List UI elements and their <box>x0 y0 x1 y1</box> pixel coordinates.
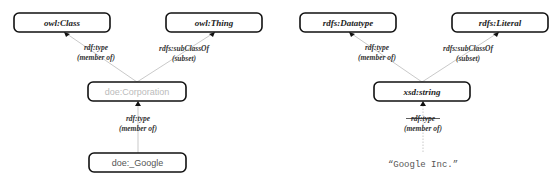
node-label: owl:Class <box>44 18 81 28</box>
node-rdfs-literal: rdfs:Literal <box>452 13 548 32</box>
edge-label-corp-subclass-1: rdfs:subClassOf <box>159 44 211 53</box>
node-label: doe:_Google <box>112 158 164 168</box>
left-diagram: rdf:type (member of) rdfs:subClassOf (su… <box>14 13 262 172</box>
node-doe-google: doe:_Google <box>89 153 186 172</box>
edge-label-string-type-2: (member of) <box>358 53 397 62</box>
edge-label-literal-type-2: (member of) <box>404 124 443 133</box>
node-label: owl:Thing <box>195 18 234 28</box>
literal-google-inc: “Google Inc.” <box>388 160 458 170</box>
edge-label-corp-type-1: rdf:type <box>84 43 109 52</box>
node-label: xsd:string <box>402 87 441 97</box>
edge-label-corp-subclass-2: (subset) <box>172 54 197 63</box>
node-xsd-string: xsd:string <box>374 82 470 101</box>
edge-label-string-type-1: rdf:type <box>365 43 390 52</box>
rdf-diagram: rdf:type (member of) rdfs:subClassOf (su… <box>0 0 560 182</box>
edge-label-google-type-1: rdf:type <box>126 114 151 123</box>
edge-label-corp-type-2: (member of) <box>77 53 116 62</box>
right-diagram: rdf:type (member of) rdfs:subClassOf (su… <box>300 13 548 170</box>
edge-label-google-type-2: (member of) <box>119 124 158 133</box>
node-owl-class: owl:Class <box>14 13 110 32</box>
edge-label-string-subclass-2: (subset) <box>456 54 481 63</box>
node-owl-thing: owl:Thing <box>166 13 262 32</box>
node-label: rdfs:Literal <box>479 18 522 28</box>
edge-label-string-subclass-1: rdfs:subClassOf <box>443 44 495 53</box>
node-doe-corporation: doe:Corporation <box>88 82 186 101</box>
node-label: rdfs:Datatype <box>323 18 374 28</box>
node-rdfs-datatype: rdfs:Datatype <box>300 13 396 32</box>
node-label: doe:Corporation <box>105 87 170 97</box>
